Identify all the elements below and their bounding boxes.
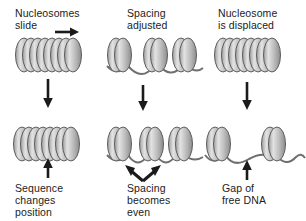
slide-direction-arrow: [55, 28, 79, 37]
chromatin-remodeling-figure: Nucleosomes slide: [0, 0, 306, 221]
spacing-top-nucleosome-clusters: [108, 38, 197, 72]
panel-nucleosome-displaced: Nucleosome is displaced: [204, 0, 306, 221]
spacing-bottom-nucleosome-clusters: [108, 127, 193, 161]
slide-transition-arrow: [43, 79, 53, 108]
spacing-callout-double-arrow: [125, 165, 161, 181]
slide-top-nucleosome-array: [16, 38, 82, 72]
displace-callout-arrow: [242, 160, 252, 180]
panel-spacing-adjusted: Spacing adjusted: [104, 0, 204, 221]
displace-bottom-nucleosome-clusters: [207, 127, 286, 161]
displace-transition-arrow: [242, 82, 252, 110]
displace-top-nucleosome-array: [215, 38, 281, 72]
panel-spacing-bottom-caption: Spacing becomes even: [127, 182, 170, 219]
slide-bottom-nucleosome-array: [14, 127, 80, 161]
panel-displace-bottom-caption: Gap of free DNA: [222, 182, 266, 206]
panel-nucleosomes-slide: Nucleosomes slide: [0, 0, 104, 221]
panel-slide-bottom-caption: Sequence changes position: [15, 182, 63, 219]
spacing-transition-arrow: [138, 85, 148, 111]
